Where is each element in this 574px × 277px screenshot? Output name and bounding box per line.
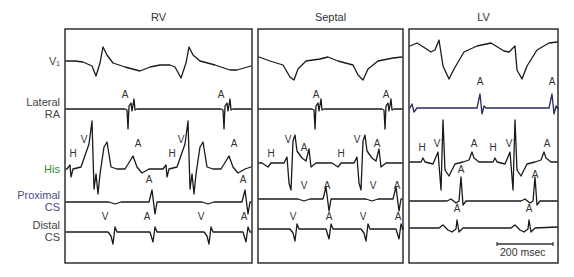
wave-label: V <box>81 134 88 145</box>
wave-label: A <box>532 169 539 180</box>
trace-path <box>410 40 557 79</box>
wave-label: A <box>231 138 238 149</box>
channel-label-line: Lateral <box>0 96 60 108</box>
wave-label: A <box>240 174 247 185</box>
wave-label: V <box>290 211 297 222</box>
wave-label: H <box>267 148 274 159</box>
trace-path <box>259 99 402 129</box>
trace-path <box>259 187 402 211</box>
wave-label: A <box>458 164 465 175</box>
wave-label: A <box>454 203 461 214</box>
trace-path <box>66 47 251 78</box>
wave-label: H <box>168 148 175 159</box>
wave-label: A <box>301 142 308 153</box>
wave-label: A <box>324 180 331 191</box>
wave-label: A <box>218 89 225 100</box>
panel-title-lv: LV <box>409 11 558 23</box>
wave-label: V <box>301 180 308 191</box>
wave-label: A <box>374 138 381 149</box>
wave-label: V <box>198 211 205 222</box>
wave-label: V <box>178 134 185 145</box>
wave-label: A <box>394 180 401 191</box>
panel-title-rv: RV <box>65 11 252 23</box>
wave-label: V <box>102 211 109 222</box>
wave-label: A <box>383 89 390 100</box>
wave-label: A <box>471 138 478 149</box>
wave-label: A <box>135 138 142 149</box>
channel-label-line: CS <box>0 201 60 213</box>
trace-path <box>410 177 557 205</box>
electrogram-figure: AAHVAHVAAAVAVAAAHVAHVAVAVAVAVAAAHVAHVAAA… <box>0 0 574 277</box>
wave-label: A <box>326 211 333 222</box>
wave-label: V <box>506 138 513 149</box>
wave-label: A <box>144 211 151 222</box>
channel-label-his: His <box>0 163 60 175</box>
wave-label: A <box>477 76 484 87</box>
trace-path <box>66 121 251 194</box>
trace-path <box>66 190 251 214</box>
wave-annotations: AAHVAHVAAAVAVAAAHVAHVAVAVAVAVAAAHVAHVAAA… <box>69 76 555 222</box>
trace-path <box>410 94 558 114</box>
channel-label-line: RA <box>0 108 60 120</box>
channel-label-line: CS <box>0 231 60 243</box>
trace-path <box>66 227 251 244</box>
trace-path <box>410 220 557 232</box>
channel-label-line: V₁ <box>0 55 60 67</box>
wave-label: V <box>370 180 377 191</box>
channel-label-line: Proximal <box>0 189 60 201</box>
channel-label-v1: V₁ <box>0 55 60 67</box>
wave-label: A <box>122 89 129 100</box>
trace-path <box>259 57 402 80</box>
scale-bar-label: 200 msec <box>500 246 546 258</box>
trace-path <box>66 99 251 129</box>
wave-label: A <box>544 138 551 149</box>
wave-label: H <box>337 148 344 159</box>
wave-label: V <box>434 138 441 149</box>
channel-label-line: His <box>0 163 60 175</box>
wave-label: H <box>418 142 425 153</box>
wave-label: A <box>549 76 556 87</box>
wave-label: H <box>489 142 496 153</box>
wave-label: A <box>241 211 248 222</box>
wave-label: A <box>146 174 153 185</box>
trace-path <box>259 135 402 190</box>
channel-label-distal_cs: DistalCS <box>0 219 60 243</box>
channel-label-lateral_ra: LateralRA <box>0 96 60 120</box>
wave-label: A <box>395 211 402 222</box>
wave-label: A <box>526 203 533 214</box>
channel-label-proximal_cs: ProximalCS <box>0 189 60 213</box>
channel-label-line: Distal <box>0 219 60 231</box>
wave-label: V <box>285 134 292 145</box>
wave-label: H <box>69 148 76 159</box>
wave-label: V <box>360 211 367 222</box>
trace-path <box>259 224 403 241</box>
panel-title-septal: Septal <box>258 11 403 23</box>
wave-label: V <box>354 134 361 145</box>
wave-label: A <box>313 89 320 100</box>
